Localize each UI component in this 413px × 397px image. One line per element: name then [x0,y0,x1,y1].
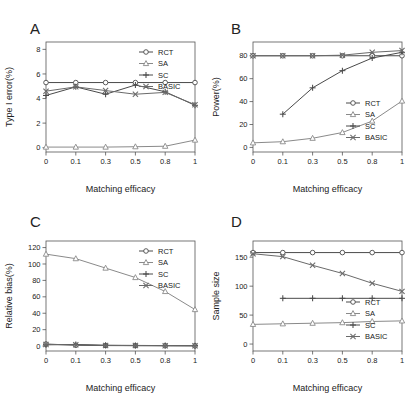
x-tick-label: 0.3 [100,157,110,166]
x-tick-label: 1 [400,356,404,365]
y-axis-title: Type I error(%) [4,67,14,127]
y-tick-label: 60 [32,292,40,301]
x-tick-label: 1 [193,157,197,166]
x-tick-label: 0.8 [367,356,377,365]
x-tick-label: 0.5 [337,157,347,166]
series-marker-rct [103,80,108,85]
legend-label-sc: SC [365,321,376,330]
legend-label-sa: SA [365,110,375,119]
panel-c: C 02040608010012000.10.30.50.81Matching … [0,199,206,397]
series-marker-sc [280,295,286,301]
x-tick-label: 0.5 [130,356,140,365]
figure-container: A 0246800.10.30.50.81Matching efficacyTy… [0,0,413,397]
legend-label-sa: SA [365,309,375,318]
legend-label-rct: RCT [158,48,174,57]
y-tick-label: 0 [243,340,247,349]
circle-icon [351,101,356,106]
panel-a: A 0246800.10.30.50.81Matching efficacyTy… [0,0,206,198]
panel-b: B 02040608000.10.30.50.81Matching effica… [207,0,413,198]
y-tick-label: 40 [239,97,247,106]
series-marker-sa [399,98,404,103]
y-tick-label: 120 [28,243,41,252]
y-tick-label: 40 [32,309,40,318]
plus-icon [143,271,149,277]
y-axis-title: Relative bias(%) [4,263,14,329]
panel-b-letter: B [231,20,242,37]
legend-label-basic: BASIC [158,281,181,290]
series-marker-rct [281,250,286,255]
legend-label-sa: SA [158,258,168,267]
y-tick-label: 50 [239,311,247,320]
x-tick-label: 0.3 [307,356,317,365]
y-tick-label: 0 [36,342,40,351]
series-line-sa [46,140,195,147]
y-tick-label: 80 [239,51,247,60]
y-tick-label: 2 [36,119,40,128]
series-marker-rct [370,250,375,255]
x-tick-label: 0 [44,356,48,365]
x-tick-label: 0.3 [100,356,110,365]
y-tick-label: 20 [32,325,40,334]
series-line-basic [253,51,402,56]
legend-label-rct: RCT [365,99,381,108]
series-line-sa [253,321,402,324]
y-tick-label: 20 [239,120,247,129]
x-axis-title: Matching efficacy [293,184,363,194]
legend-label-rct: RCT [158,247,174,256]
series-marker-sa [43,251,48,256]
y-tick-label: 6 [36,70,40,79]
x-axis-title: Matching efficacy [293,383,363,393]
y-tick-label: 150 [235,253,248,262]
y-tick-label: 100 [235,282,248,291]
y-tick-label: 100 [28,260,41,269]
circle-icon [144,249,149,254]
x-tick-label: 0 [251,356,255,365]
circle-icon [351,300,356,305]
series-line-sc [283,52,402,114]
x-tick-label: 0.5 [130,157,140,166]
x-tick-label: 0 [251,157,255,166]
panel-a-letter: A [30,20,41,37]
series-marker-sa [192,307,197,312]
legend-label-sa: SA [158,59,168,68]
x-tick-label: 0.1 [278,157,288,166]
x-tick-label: 0.5 [337,356,347,365]
plot-frame [46,42,195,152]
legend-label-basic: BASIC [365,133,388,142]
x-tick-label: 0.3 [307,157,317,166]
series-marker-rct [44,80,49,85]
x-tick-label: 0.1 [71,157,81,166]
y-tick-label: 0 [36,143,40,152]
legend-label-sc: SC [158,71,169,80]
legend-label-sc: SC [158,270,169,279]
series-marker-sc [399,295,405,301]
series-marker-sc [339,295,345,301]
y-tick-label: 80 [32,276,40,285]
series-marker-sc [310,295,316,301]
series-marker-sa [192,137,197,142]
y-axis-title: Sample size [211,271,221,320]
series-line-basic [253,254,402,292]
x-axis-title: Matching efficacy [86,383,156,393]
series-marker-sc [339,68,345,74]
panel-d-letter: D [231,213,242,230]
x-tick-label: 0 [44,157,48,166]
x-tick-label: 0.1 [278,356,288,365]
legend-label-basic: BASIC [365,332,388,341]
y-tick-label: 8 [36,45,40,54]
series-marker-rct [340,250,345,255]
x-axis-title: Matching efficacy [86,184,156,194]
circle-icon [144,50,149,55]
x-tick-label: 0.8 [367,157,377,166]
series-line-basic [46,344,195,345]
series-marker-rct [193,80,198,85]
series-marker-rct [310,250,315,255]
y-tick-label: 0 [243,143,247,152]
x-tick-label: 0.8 [160,356,170,365]
y-tick-label: 4 [36,94,40,103]
x-tick-label: 1 [400,157,404,166]
x-tick-label: 0.1 [71,356,81,365]
series-marker-rct [400,250,405,255]
plus-icon [143,72,149,78]
plus-icon [350,322,356,328]
